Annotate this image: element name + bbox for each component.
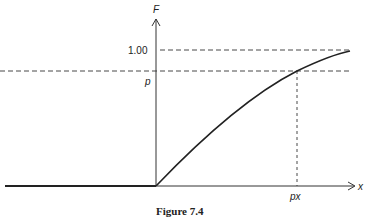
x-axis-label: x bbox=[357, 181, 364, 192]
y-tick-p: p bbox=[144, 76, 151, 87]
cdf-diagram: F x 1.00 p px Figure 7.4 bbox=[0, 0, 365, 218]
x-tick-px: px bbox=[289, 191, 302, 202]
y-axis-label: F bbox=[153, 4, 160, 15]
y-tick-1-00: 1.00 bbox=[128, 45, 148, 56]
figure-caption: Figure 7.4 bbox=[156, 205, 204, 217]
